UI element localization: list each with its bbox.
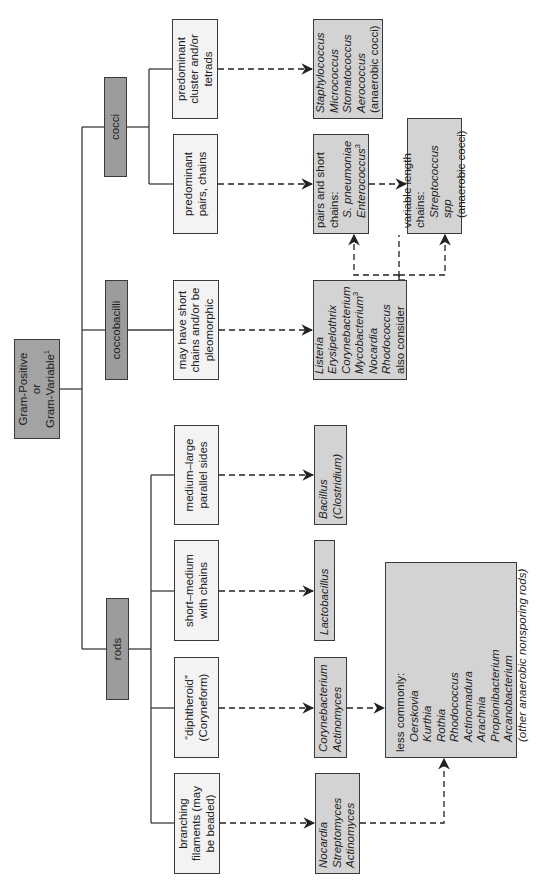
description-line: predominant	[182, 152, 196, 216]
organism-with-footnote: Enterococcus3	[355, 144, 369, 228]
footnote-marker: 1	[42, 350, 51, 354]
category-rods: rods	[106, 598, 129, 700]
organism-name: Kurthia	[421, 706, 435, 752]
organism-name: Mycobacterium	[353, 296, 365, 374]
root-line-1: Gram-Positive	[17, 353, 31, 426]
description-branching: branching filaments (may be beaded)	[174, 773, 220, 874]
result-header: less commonly:	[394, 673, 408, 752]
description-line: tetrads	[202, 51, 216, 86]
description-line: pleomorphic	[203, 299, 217, 362]
organism-name: Staphylococcus	[314, 32, 328, 113]
organism-name: Erysipelothrix	[326, 305, 340, 374]
result-lactobacillus: Lactobacillus	[314, 540, 335, 641]
organism-name: Arcanobacterium	[502, 655, 516, 752]
description-diphtheroid: “diphtheroid” (Coryneform)	[174, 657, 219, 758]
description-line: “diphtheroid”	[183, 675, 197, 740]
organism-name: Aerococcus	[355, 53, 369, 113]
organism-name: (Clostridium)	[331, 454, 345, 519]
organism-note: (anaerobic cocci)	[455, 130, 469, 228]
result-staphylococcus-group: Staphylococcus Micrococcus Stomatococcus…	[313, 19, 383, 119]
organism-name: (other anaerobic nonsporing rods)	[516, 569, 530, 752]
category-label: rods	[111, 638, 125, 660]
category-cocci: cocci	[104, 77, 127, 177]
result-corynebacterium: Corynebacterium Actinomyces	[314, 657, 347, 758]
description-line: filaments (may	[190, 786, 204, 861]
root-line-3: Gram-Variable1	[44, 350, 58, 428]
organism-name: Arachnia	[475, 697, 489, 752]
result-line: chains:	[414, 192, 428, 228]
description-line: pairs, chains	[196, 152, 210, 217]
organism-name: Rhodococcus	[380, 304, 394, 374]
description-line: chains and/or be	[189, 287, 203, 372]
description-line: short–medium	[183, 554, 197, 627]
root-line-3-text: Gram-Variable	[44, 354, 56, 428]
root-line-2: or	[30, 384, 44, 394]
organism-name: Propionibacterium	[489, 649, 503, 752]
flowchart-canvas: Gram-Positive or Gram-Variable1 cocci co…	[0, 0, 554, 887]
description-line: parallel sides	[197, 441, 211, 508]
organism-name: Oerskovia	[408, 690, 422, 752]
organism-name: Actinomyces	[344, 803, 358, 868]
result-line: pairs and short	[314, 152, 328, 228]
root-node-gram-positive: Gram-Positive or Gram-Variable1	[14, 339, 60, 439]
organism-name: S. pneumoniae	[341, 141, 355, 228]
result-less-commonly: less commonly: Oerskovia Kurthia Rothia …	[385, 562, 517, 758]
organism-name: Lactobacillus	[318, 569, 332, 635]
organism-name: Actinomadura	[462, 671, 476, 752]
organism-name: Corynebacterium	[317, 664, 331, 752]
description-line: medium–large	[183, 439, 197, 512]
description-pleomorphic: may have short chains and/or be pleomorp…	[173, 280, 219, 380]
organism-name: Actinomyces	[331, 687, 345, 752]
result-variable-length-chains: variable length chains: Streptococcus sp…	[407, 118, 462, 234]
organism-name: Streptococcus spp	[428, 124, 455, 228]
organism-name: Rothia	[435, 709, 449, 752]
organism-name: Listeria	[313, 337, 327, 374]
footnote-marker: 3	[353, 144, 362, 148]
organism-name: Nocardia	[367, 328, 381, 374]
organism-with-footnote: Mycobacterium3	[353, 292, 367, 374]
description-line: be beaded)	[204, 794, 218, 852]
description-line: predominant	[175, 37, 189, 101]
description-medium-large: medium–large parallel sides	[174, 425, 219, 525]
footnote-marker: 3	[351, 292, 360, 296]
description-pairs-chains: predominant pairs, chains	[173, 134, 218, 234]
result-line: variable length	[401, 153, 415, 228]
description-short-medium: short–medium with chains	[174, 540, 219, 641]
organism-name: Corynebacterium	[340, 286, 354, 374]
description-cluster-tetrads: predominant cluster and/or tetrads	[172, 19, 218, 119]
organism-name: Bacillus	[317, 479, 331, 519]
category-coccobacilli: coccobacilli	[105, 280, 128, 380]
description-line: cluster and/or	[188, 34, 202, 104]
organism-name: Stomatococcus	[341, 34, 355, 113]
description-line: branching	[177, 798, 191, 849]
category-label: coccobacilli	[110, 301, 124, 360]
result-note: also consider	[394, 306, 408, 374]
organism-name: Micrococcus	[328, 49, 342, 113]
result-bacillus: Bacillus (Clostridium)	[314, 425, 347, 525]
organism-name: Enterococcus	[355, 148, 367, 218]
organism-name: Rhodococcus	[448, 672, 462, 752]
result-listeria-group: Listeria Erysipelothrix Corynebacterium …	[313, 280, 407, 380]
result-nocardia: Nocardia Streptomyces Actinomyces	[315, 773, 360, 874]
description-line: with chains	[197, 562, 211, 619]
category-label: cocci	[109, 114, 123, 140]
organism-name: Streptomyces	[331, 798, 345, 868]
result-pairs-short-chains: pairs and short chains: S. pneumoniae En…	[313, 134, 369, 234]
result-line: chains:	[328, 192, 342, 228]
organism-name: Nocardia	[317, 822, 331, 868]
description-line: may have short	[176, 291, 190, 370]
organism-note: (anaerobic cocci)	[368, 25, 382, 113]
description-line: (Coryneform)	[197, 674, 211, 742]
